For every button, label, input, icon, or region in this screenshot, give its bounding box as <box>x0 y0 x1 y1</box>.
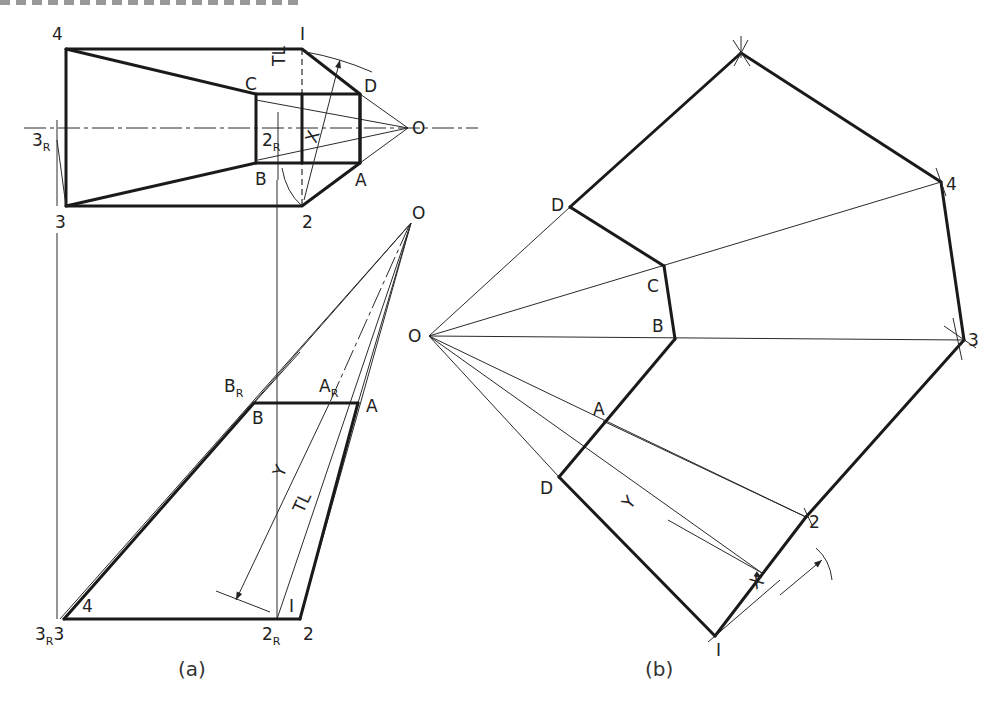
point-label: I <box>300 24 305 44</box>
point-label: 3 <box>968 330 979 350</box>
construction-line <box>429 207 570 336</box>
point-label: I <box>289 596 294 616</box>
construction-line <box>429 182 941 336</box>
panel-captions: (a) (b) <box>178 657 673 681</box>
point-label: O <box>412 203 425 223</box>
caption-a: (a) <box>178 657 206 681</box>
point-label: 3R <box>32 130 51 154</box>
point-label: Y <box>268 461 291 480</box>
point-label: B <box>252 408 264 428</box>
development-edge <box>806 340 964 517</box>
construction-line <box>429 336 964 340</box>
point-label: A <box>366 396 378 416</box>
construction-line <box>715 580 780 636</box>
point-label: B <box>652 316 664 336</box>
point-label: D <box>551 195 564 215</box>
left-edge <box>64 403 254 619</box>
development-edge <box>570 207 664 266</box>
point-label: 2 <box>302 212 313 232</box>
ray-to-apex <box>256 100 408 128</box>
point-label: A <box>355 170 367 190</box>
point-label: 4 <box>52 24 63 44</box>
front-view: OBRBARAYTL4I3R32R2 <box>35 180 425 648</box>
construction-line <box>429 336 762 573</box>
point-label: BR <box>224 376 244 400</box>
point-label: C <box>647 276 659 296</box>
development-edge <box>559 477 715 636</box>
point-label: 2 <box>809 512 820 532</box>
point-label: TL <box>269 46 289 67</box>
ray-from-apex <box>358 223 411 403</box>
point-label: 2R <box>262 624 281 648</box>
construction-line <box>429 336 559 477</box>
slant-edge-top <box>66 49 256 94</box>
point-label: 3 <box>55 212 66 232</box>
point-label: A <box>593 399 605 419</box>
ray-to-apex <box>360 94 408 128</box>
swing-arc <box>282 168 302 206</box>
point-label: TL <box>288 489 315 517</box>
development-edge <box>741 53 941 182</box>
point-label: X <box>301 127 324 145</box>
point-label: D <box>540 478 553 498</box>
point-label: 4 <box>82 596 93 616</box>
point-label: B <box>255 169 267 189</box>
y-arc-tick <box>216 591 270 612</box>
point-label: AR <box>319 376 339 400</box>
ray-from-apex <box>277 223 411 619</box>
point-label: O <box>412 118 425 138</box>
x-dimension-line <box>780 560 822 595</box>
point-label: D <box>364 76 377 96</box>
development-edge <box>570 53 741 207</box>
point-label: I <box>716 640 721 660</box>
development-edge <box>664 266 675 339</box>
point-label: 2 <box>303 624 314 644</box>
point-label: C <box>245 74 257 94</box>
true-length-line <box>330 226 409 402</box>
y-dimension-line <box>236 402 330 600</box>
descriptive-geometry-figure: 4ICDTLXO3R2RBA32 OBRBARAYTL4I3R32R2 D4CB… <box>0 0 1008 708</box>
slant-edge-bottom <box>66 163 256 206</box>
arrowhead-icon <box>335 60 341 68</box>
point-label: Y <box>617 491 640 513</box>
top-view: 4ICDTLXO3R2RBA32 <box>24 24 478 232</box>
point-label: 4 <box>946 174 957 194</box>
point-label: 3R3 <box>35 624 64 648</box>
panel-b-development: D4CB3OADY2XI <box>408 36 979 660</box>
y-dimension-line <box>668 520 762 573</box>
development-edge <box>941 182 964 340</box>
caption-b: (b) <box>645 657 673 681</box>
point-label: O <box>408 326 421 346</box>
development-edge <box>559 339 675 477</box>
